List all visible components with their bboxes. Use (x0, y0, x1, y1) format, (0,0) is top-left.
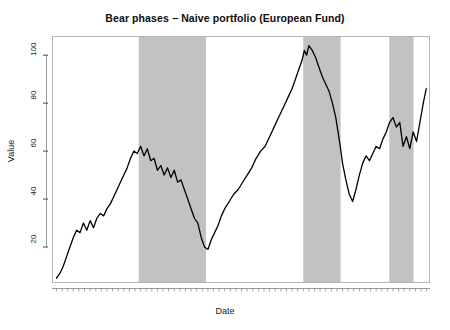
y-axis-tick-label: 40 (29, 187, 38, 209)
y-axis-ticks (43, 55, 48, 247)
y-axis-tick-label: 20 (29, 235, 38, 257)
plot-frame (53, 37, 430, 283)
series-line (56, 46, 426, 279)
y-axis-tick-label: 60 (29, 139, 38, 161)
x-axis-title: Date (0, 306, 450, 316)
bear-phase-band (139, 36, 206, 283)
y-axis-title: Value (6, 121, 16, 181)
x-axis-ticks (0, 287, 430, 292)
y-axis-tick-label: 100 (29, 43, 38, 65)
y-axis-tick-label: 80 (29, 91, 38, 113)
data-series-line (56, 46, 426, 279)
chart-plot-area (0, 0, 450, 330)
chart-canvas: Bear phases − Naive portfolio (European … (0, 0, 450, 330)
bear-phase-bands (139, 36, 414, 283)
bear-phase-band (303, 36, 340, 283)
bear-phase-band (389, 36, 413, 283)
